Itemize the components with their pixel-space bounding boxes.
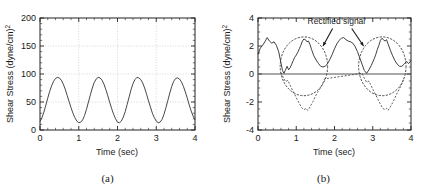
- panel-b-plot: Rectified signal 01234 -4-2024 Time (sec…: [216, 0, 431, 160]
- panel-a-subfigure-label: (a): [0, 172, 215, 184]
- panel-a-data-line: [40, 77, 195, 122]
- panel-b-y-tick-labels: -4-2024: [246, 13, 254, 135]
- svg-text:4: 4: [192, 133, 197, 143]
- panel-a-ticks: [40, 18, 195, 130]
- svg-text:2: 2: [332, 133, 337, 143]
- panel-b-subfigure-label: (b): [216, 172, 431, 184]
- svg-text:2: 2: [249, 41, 254, 51]
- panel-a-x-axis-title: Time (sec): [96, 147, 138, 157]
- svg-text:100: 100: [21, 69, 36, 79]
- svg-text:3: 3: [370, 133, 375, 143]
- panel-a: 01234 050100150200 Time (sec) Shear Stre…: [0, 0, 215, 188]
- panel-a-x-tick-labels: 01234: [37, 133, 197, 143]
- svg-text:150: 150: [21, 41, 36, 51]
- svg-text:-2: -2: [246, 97, 254, 107]
- svg-text:4: 4: [408, 133, 413, 143]
- svg-text:1: 1: [294, 133, 299, 143]
- svg-text:2: 2: [115, 133, 120, 143]
- panel-a-y-tick-labels: 050100150200: [21, 13, 36, 135]
- svg-text:200: 200: [21, 13, 36, 23]
- svg-text:0: 0: [31, 125, 36, 135]
- svg-text:0: 0: [255, 133, 260, 143]
- svg-text:-4: -4: [246, 125, 254, 135]
- panel-a-gridlines: [40, 18, 195, 130]
- panel-b-original-signal-line: [281, 73, 404, 111]
- panel-b-rectified-signal-line: [258, 38, 411, 74]
- panel-a-plot: 01234 050100150200 Time (sec) Shear Stre…: [0, 0, 215, 160]
- panel-a-plot-frame: [40, 18, 195, 130]
- panel-b-x-axis-title: Time (sec): [313, 147, 355, 157]
- svg-text:1: 1: [76, 133, 81, 143]
- panel-b: Rectified signal 01234 -4-2024 Time (sec…: [216, 0, 431, 188]
- panel-b-annotation-label: Rectified signal: [308, 16, 366, 26]
- panel-b-x-tick-labels: 01234: [255, 133, 413, 143]
- panel-b-highlight-ellipses: [280, 37, 406, 96]
- svg-text:0: 0: [37, 133, 42, 143]
- panel-b-y-axis-title: Shear Stress (dyne/cm)2: [221, 25, 232, 124]
- svg-text:3: 3: [154, 133, 159, 143]
- panel-a-y-axis-title: Shear Stress (dyne/cm)2: [4, 25, 15, 124]
- svg-text:0: 0: [249, 69, 254, 79]
- figure-container: 01234 050100150200 Time (sec) Shear Stre…: [0, 0, 431, 188]
- svg-text:50: 50: [26, 97, 36, 107]
- svg-text:4: 4: [249, 13, 254, 23]
